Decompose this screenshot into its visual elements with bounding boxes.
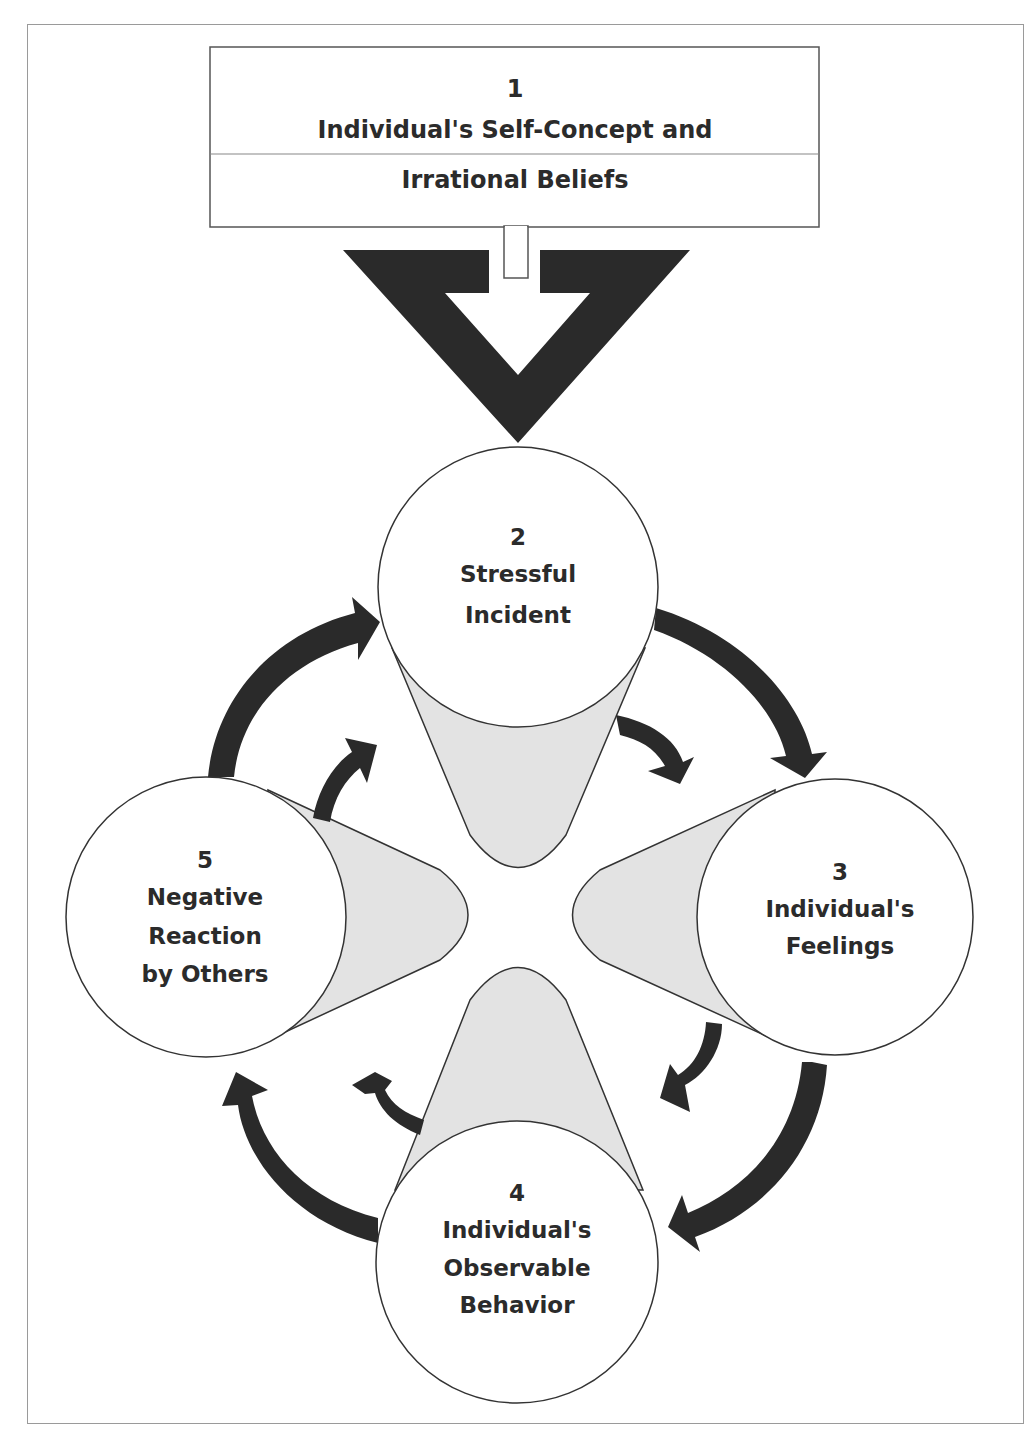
big-down-arrow-icon [343, 250, 690, 443]
node-4: 4 Individual's Observable Behavior [376, 1121, 658, 1403]
title-box-number: 1 [507, 75, 524, 103]
arrow-4-to-5-icon [222, 1072, 378, 1243]
node-2-line2: Incident [465, 602, 571, 628]
node-2-line1: Stressful [460, 561, 576, 587]
node-5: 5 Negative Reaction by Others [66, 777, 346, 1057]
inner-arrow-4-to-5-icon [352, 1072, 424, 1135]
node-4-line2: Observable [443, 1255, 590, 1281]
node-3-number: 3 [832, 859, 848, 885]
node-5-number: 5 [197, 847, 213, 873]
title-box: 1 Individual's Self-Concept and Irration… [210, 47, 819, 227]
node-4-line3: Behavior [459, 1292, 575, 1318]
node-5-line3: by Others [141, 961, 268, 987]
title-box-line2: Irrational Beliefs [402, 166, 629, 194]
node-4-line1: Individual's [442, 1217, 591, 1243]
node-3: 3 Individual's Feelings [697, 779, 973, 1055]
title-box-line1: Individual's Self-Concept and [318, 116, 713, 144]
node-5-line1: Negative [147, 884, 263, 910]
node-4-number: 4 [509, 1180, 525, 1206]
node-5-line2: Reaction [148, 923, 262, 949]
arrow-3-to-4-icon [668, 1062, 827, 1252]
node-2: 2 Stressful Incident [378, 447, 658, 727]
node-3-line1: Individual's [765, 896, 914, 922]
node-3-line2: Feelings [786, 933, 894, 959]
cycle-diagram: 1 Individual's Self-Concept and Irration… [0, 0, 1032, 1442]
node-2-number: 2 [510, 524, 526, 550]
title-box-stem [504, 226, 528, 278]
inner-arrow-5-to-2-icon [313, 738, 377, 822]
inner-arrow-2-to-3-icon [616, 715, 694, 784]
inner-arrow-3-to-4-icon [660, 1022, 722, 1112]
arrow-2-to-3-icon [654, 608, 827, 778]
